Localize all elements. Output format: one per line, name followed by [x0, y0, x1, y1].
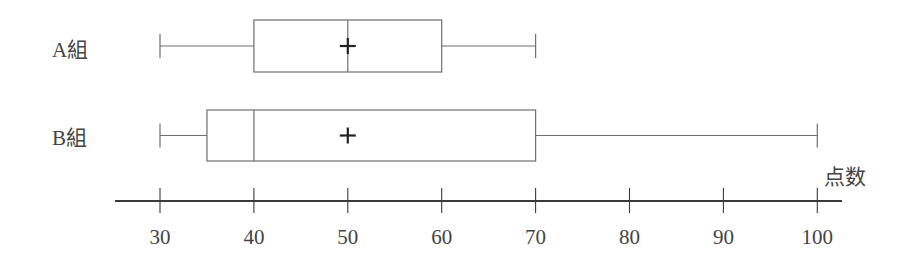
tick-label: 70 [525, 225, 546, 250]
tick-label: 50 [337, 225, 358, 250]
x-axis [115, 188, 842, 213]
group-label-a: A組 [52, 33, 88, 63]
tick-label: 40 [243, 225, 264, 250]
x-axis-title: 点数 [824, 160, 866, 190]
tick-label: 30 [150, 225, 171, 250]
tick-label: 80 [619, 225, 640, 250]
tick-label: 60 [431, 225, 452, 250]
group-label-b: B組 [52, 121, 87, 151]
tick-label: 90 [713, 225, 734, 250]
box-a [160, 20, 536, 72]
boxplot-series [160, 20, 817, 161]
tick-label: 100 [802, 225, 834, 250]
box-b [160, 110, 817, 161]
boxplot-chart [0, 0, 919, 269]
iqr-box [207, 110, 536, 161]
